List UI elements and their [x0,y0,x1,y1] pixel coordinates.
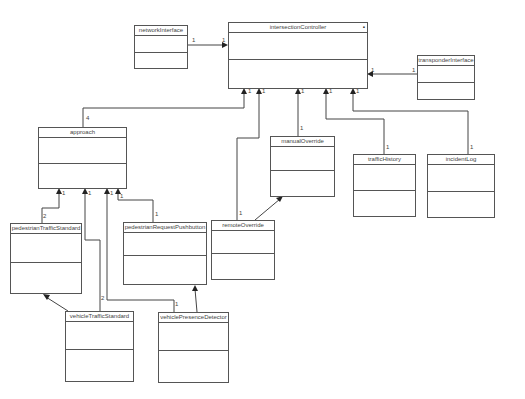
class-manualOverride[interactable]: manualOverride [270,136,335,197]
class-name: networkInterface [135,26,187,36]
assoc-vehtraffic-approach [85,192,100,311]
multiplicity-label: 1 [192,37,195,43]
class-name: approach [39,128,126,138]
class-name: pedestrianTrafficStandard [11,224,81,234]
multiplicity-label: 1 [120,193,123,199]
class-pedestrianRequestPushbutton[interactable]: pedestrianRequestPushbutton [123,222,207,285]
multiplicity-label: 1 [222,37,225,43]
class-trafficHistory[interactable]: trafficHistory [353,154,416,217]
attributes-compartment [11,234,81,263]
multiplicity-label: 1 [412,67,415,73]
attributes-compartment [39,138,126,164]
class-incidentLog[interactable]: incidentLog [427,154,495,218]
class-vehicleTrafficStandard[interactable]: vehicleTrafficStandard [65,311,134,382]
multiplicity-label: 1 [329,88,332,94]
attributes-compartment [135,36,187,53]
attributes-compartment [229,33,367,60]
class-vehiclePresenceDetector[interactable]: vehiclePresenceDetector [158,312,229,383]
multiplicity-label: 4 [86,115,89,121]
class-name: vehicleTrafficStandard [66,312,133,322]
class-remoteOverride[interactable]: remoteOverride [211,220,275,280]
class-name: remoteOverride [212,221,274,231]
multiplicity-label: 1 [470,144,473,150]
multiplicity-label: 1 [262,88,265,94]
assoc-remote-manual [255,199,280,220]
attributes-compartment [66,322,133,350]
multiplicity-label: 1 [110,190,113,196]
multiplicity-label: 1 [386,144,389,150]
class-name: transponderInterface [418,56,474,66]
class-name-text: intersectionController [270,24,327,30]
multiplicity-label: 1 [239,210,242,216]
assoc-vehtraffic-pedtraffic [46,297,68,311]
assoc-approach-controller [83,92,244,127]
attributes-compartment [124,233,206,256]
class-transponderInterface[interactable]: transponderInterface [417,55,475,100]
attributes-compartment [428,165,494,192]
multiplicity-label: 1 [88,190,91,196]
class-name: trafficHistory [354,155,415,165]
multiplicity-label: 1 [301,88,304,94]
multiplicity-label: 1 [356,88,359,94]
multiplicity-label: 1 [175,301,178,307]
multiplicity-label: 2 [101,295,104,301]
multiplicity-label: 1 [155,211,158,217]
class-approach[interactable]: approach [38,127,127,189]
class-networkInterface[interactable]: networkInterface [134,25,188,69]
assoc-incident-controller [353,92,468,154]
multiplicity-label: 1 [62,190,65,196]
class-pedestrianTrafficStandard[interactable]: pedestrianTrafficStandard [10,223,82,294]
multiplicity-label: 2 [43,213,46,219]
attributes-compartment [271,147,334,171]
multiplicity-label: 1 [248,88,251,94]
attributes-compartment [159,323,228,351]
multiplicity-label: 1 [371,67,374,73]
assoc-vehpresence-pedrequest [195,289,197,312]
attributes-compartment [212,231,274,254]
attributes-compartment [354,165,415,191]
class-name: vehiclePresenceDetector [159,313,228,323]
multiplicity-label: 1 [300,125,303,131]
class-name: intersectionController▪ [229,23,367,33]
assoc-remote-controller [237,92,259,220]
class-marker-icon: ▪ [363,23,365,32]
class-name: pedestrianRequestPushbutton [124,223,206,233]
class-intersectionController[interactable]: intersectionController▪ [228,22,368,89]
class-name: incidentLog [428,155,494,165]
uml-diagram-canvas: networkInterface intersectionController▪… [0,0,525,399]
arrowhead-icon [192,285,198,291]
class-name: manualOverride [271,137,334,147]
attributes-compartment [418,66,474,83]
